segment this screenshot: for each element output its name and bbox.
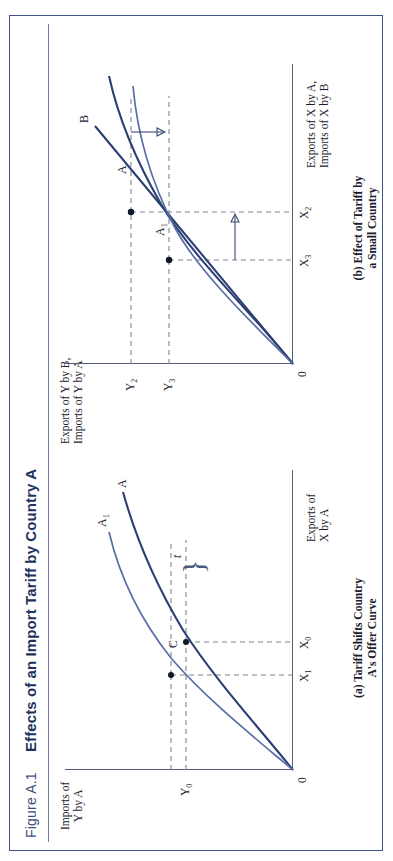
panel-a-x-axis-label: Exports of X by A [305, 494, 330, 542]
panel-b-ytick-Y3: Y3 [162, 379, 177, 391]
panel-b: Exports of Y by B, Imports of Y by A [55, 28, 375, 428]
panel-a-point-C [183, 639, 189, 645]
panel-a-point-label-C: C [167, 640, 179, 648]
figure-frame: Figure A.1 Effects of an Import Tariff b… [9, 15, 383, 851]
panel-b-curve-label-A1: A1 [153, 223, 169, 236]
panel-a-curve-label-A1: A1 [95, 514, 111, 527]
panel-a-ytick-Y0: Y0 [179, 784, 194, 796]
panel-a-curve-label-A: A [115, 479, 130, 488]
panel-a-plot: A A1 C } t Y0 X1 X0 0 Exports of X by A [65, 470, 293, 770]
figure-title: Effects of an Import Tariff by Country A [22, 469, 39, 752]
panel-b-curve-label-B: B [77, 115, 92, 123]
panel-b-origin: 0 [296, 371, 308, 377]
panel-a-tariff-label: t [171, 555, 183, 558]
title-divider [48, 24, 49, 842]
panel-b-point-tariff-equilibrium [166, 257, 172, 263]
panel-b-curves [65, 64, 293, 364]
figure-title-bar: Figure A.1 Effects of an Import Tariff b… [15, 18, 49, 848]
panel-a-curve-A [123, 492, 293, 770]
figure-rotated-canvas: Figure A.1 Effects of an Import Tariff b… [11, 18, 381, 848]
panel-a-y-axis-label: Imports of Y by A [59, 782, 84, 830]
panel-a: Imports of Y by A [55, 442, 375, 834]
panel-b-plot: B A A1 Y2 Y3 X3 X2 0 Exports of X by A, … [65, 64, 293, 364]
panel-b-point-equilibrium [128, 209, 134, 215]
panel-b-x-axis-label: Exports of X by A, Imports of X by B [305, 81, 330, 168]
panel-a-xtick-X0: X0 [298, 637, 313, 649]
panel-b-y-axis-label: Exports of Y by B, Imports of Y by A [59, 358, 84, 444]
panel-a-xtick-X1: X1 [298, 670, 313, 682]
panel-b-curve-label-A: A [115, 165, 130, 174]
panel-a-origin: 0 [296, 777, 308, 783]
panel-b-caption: (b) Effect of Tariff by a Small Country [352, 28, 379, 428]
panel-b-xtick-X2: X2 [298, 207, 313, 219]
panel-b-xtick-X3: X3 [298, 255, 313, 267]
panel-a-point-tariff [168, 672, 174, 678]
figure-number: Figure A.1 [23, 772, 39, 838]
panel-b-ytick-Y2: Y2 [124, 379, 139, 391]
panel-a-caption: (a) Tariff Shifts Country A's Offer Curv… [352, 442, 379, 834]
